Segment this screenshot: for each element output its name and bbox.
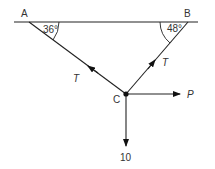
label-b: B [184, 8, 191, 19]
tension-arrow-cb [148, 60, 155, 69]
tension-arrow-ca [88, 66, 98, 73]
node-c [123, 91, 128, 96]
label-c: C [113, 94, 120, 105]
label-a: A [21, 8, 28, 19]
tension-label-ca: T [73, 73, 80, 84]
tension-label-cb: T [162, 57, 169, 68]
angle-label-b: 48° [167, 23, 182, 34]
force-diagram: A B C 36° 48° T T P 10 [0, 0, 215, 169]
force-label-weight: 10 [120, 152, 132, 163]
force-label-p: P [187, 89, 194, 100]
angle-label-a: 36° [43, 24, 58, 35]
